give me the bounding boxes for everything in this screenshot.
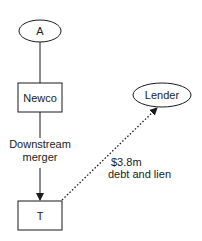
merger-label-line2: merger [23, 151, 58, 163]
node-t: T [18, 201, 62, 230]
node-lender: Lender [133, 83, 191, 107]
node-newco: Newco [18, 83, 62, 112]
diagram-canvas: A Newco Downstream merger T Lender $3.8m… [0, 0, 202, 241]
node-a: A [19, 20, 61, 42]
merger-label-line1: Downstream [9, 138, 71, 150]
node-t-label: T [37, 210, 44, 222]
debt-label-line1: $3.8m [111, 156, 142, 168]
debt-arrow-icon [62, 108, 157, 200]
edge-debt: $3.8m debt and lien [62, 108, 171, 200]
edge-merger: Downstream merger [9, 112, 71, 200]
node-a-label: A [36, 25, 44, 37]
debt-label-line2: debt and lien [108, 168, 171, 180]
node-newco-label: Newco [23, 92, 57, 104]
node-lender-label: Lender [145, 89, 180, 101]
